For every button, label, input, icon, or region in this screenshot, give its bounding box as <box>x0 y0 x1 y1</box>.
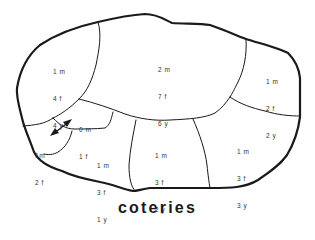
young-count: 6 y <box>158 119 171 128</box>
males-count: 2 m <box>158 65 171 74</box>
females-count: 3 f <box>155 178 168 187</box>
diagram-title: coteries <box>0 199 315 217</box>
coterie-small-left-label: 1m 2 f <box>35 133 45 196</box>
males-count: 1 m <box>53 67 66 76</box>
females-count: 2 f <box>266 104 279 113</box>
divider-center-horizontal <box>79 97 230 120</box>
young-count: 4 y <box>53 121 66 130</box>
coterie-top-right-label: 1 m 2 f 2 y <box>266 59 279 149</box>
coterie-top-center-label: 2 m 7 f 6 y <box>158 47 171 137</box>
males-count: 1m <box>35 151 45 160</box>
males-count: 1 m <box>266 77 279 86</box>
females-count: 2 f <box>35 178 45 187</box>
males-count: 0 m <box>79 125 92 134</box>
males-count: 1 m <box>155 151 168 160</box>
females-count: 1 f <box>79 152 92 161</box>
females-count: 3 f <box>97 188 110 197</box>
coterie-small-center-label: 0 m 1 f <box>79 107 92 170</box>
divider-bottom-left <box>129 120 136 191</box>
females-count: 3 f <box>237 174 250 183</box>
divider-left-horizontal <box>23 118 53 126</box>
divider-right-horizontal <box>230 97 300 116</box>
females-count: 4 f <box>53 94 66 103</box>
females-count: 7 f <box>158 92 171 101</box>
males-count: 1 m <box>237 147 250 156</box>
young-count: 2 y <box>266 131 279 140</box>
males-count: 1 m <box>97 161 110 170</box>
coterie-top-left-label: 1 m 4 f 4 y <box>53 49 66 139</box>
divider-bottom-right <box>193 119 210 188</box>
divider-top-right <box>230 39 246 97</box>
